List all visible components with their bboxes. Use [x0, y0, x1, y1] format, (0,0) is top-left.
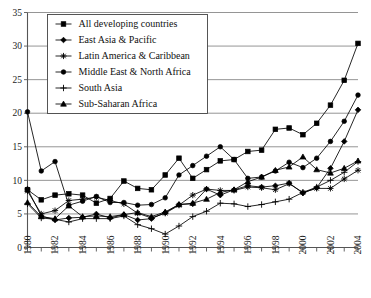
- point-latin-america-and-caribbean-1999: [286, 181, 292, 187]
- point-all-developing-countries-1998: [273, 127, 278, 132]
- point-all-developing-countries-1991: [177, 156, 182, 161]
- y-tick-label-5: 5: [17, 209, 22, 219]
- point-south-asia-1992: [190, 213, 196, 219]
- point-middle-east-and-north-africa-1980: [25, 110, 30, 115]
- point-all-developing-countries-2000: [301, 132, 306, 137]
- point-middle-east-and-north-africa-2001: [314, 156, 319, 161]
- point-south-asia-2002: [327, 177, 333, 183]
- point-middle-east-and-north-africa-2000: [301, 165, 306, 170]
- legend-label-east-asia-and-pacific: East Asia & Pacific: [79, 34, 158, 45]
- point-latin-america-and-caribbean-1993: [203, 186, 209, 192]
- point-all-developing-countries-1990: [163, 173, 168, 178]
- chart-container: 05101520253035 1980198219841986198819901…: [0, 0, 371, 298]
- point-all-developing-countries-1993: [204, 167, 209, 172]
- point-middle-east-and-north-africa-2004: [356, 93, 361, 98]
- point-all-developing-countries-2004: [356, 41, 361, 46]
- point-south-asia-2000: [300, 189, 306, 195]
- legend-marker-middle-east-and-north-africa: [61, 70, 66, 75]
- point-all-developing-countries-1982: [53, 193, 58, 198]
- point-sub-saharan-africa-2004: [355, 158, 361, 163]
- point-middle-east-and-north-africa-2002: [328, 139, 333, 144]
- point-all-developing-countries-1987: [122, 179, 127, 184]
- y-tick-label-10: 10: [13, 176, 23, 186]
- x-tick-label-1998: 1998: [271, 235, 281, 254]
- legend-label-middle-east-and-north-africa: Middle East & North Africa: [79, 66, 192, 77]
- x-tick-label-1984: 1984: [78, 235, 88, 254]
- point-south-asia-1997: [258, 201, 264, 207]
- y-axis-tick-labels: 05101520253035: [13, 8, 23, 253]
- x-tick-label-1982: 1982: [50, 235, 60, 254]
- point-all-developing-countries-2003: [342, 78, 347, 83]
- point-all-developing-countries-1985: [94, 201, 99, 206]
- y-tick-label-20: 20: [13, 108, 23, 118]
- x-tick-label-1992: 1992: [188, 235, 198, 254]
- x-tick-label-2002: 2002: [326, 235, 336, 254]
- x-tick-label-2004: 2004: [353, 235, 363, 254]
- point-latin-america-and-caribbean-1980: [24, 188, 30, 194]
- point-sub-saharan-africa-1980: [25, 200, 31, 205]
- point-all-developing-countries-1989: [149, 187, 154, 192]
- point-south-asia-1983: [66, 219, 72, 225]
- point-latin-america-and-caribbean-1996: [245, 184, 251, 190]
- point-middle-east-and-north-africa-1989: [149, 202, 154, 207]
- point-all-developing-countries-1988: [135, 186, 140, 191]
- point-latin-america-and-caribbean-2004: [355, 167, 361, 173]
- point-latin-america-and-caribbean-2003: [341, 176, 347, 182]
- point-middle-east-and-north-africa-1982: [53, 159, 58, 164]
- point-latin-america-and-caribbean-1998: [272, 187, 278, 193]
- point-all-developing-countries-1996: [246, 149, 251, 154]
- point-latin-america-and-caribbean-1982: [52, 207, 58, 213]
- point-middle-east-and-north-africa-1984: [80, 199, 85, 204]
- point-all-developing-countries-1983: [67, 191, 72, 196]
- point-south-asia-1993: [203, 208, 209, 214]
- point-middle-east-and-north-africa-1995: [232, 157, 237, 162]
- point-all-developing-countries-1999: [287, 126, 292, 131]
- x-tick-label-1988: 1988: [133, 235, 143, 254]
- y-tick-label-30: 30: [13, 41, 23, 51]
- x-tick-label-2000: 2000: [298, 235, 308, 254]
- point-sub-saharan-africa-2003: [341, 165, 347, 170]
- x-tick-label-1994: 1994: [216, 235, 226, 254]
- point-all-developing-countries-1992: [190, 176, 195, 181]
- legend-marker-latin-america-and-caribbean: [60, 53, 66, 59]
- legend-label-latin-america-and-caribbean: Latin America & Caribbean: [79, 50, 190, 61]
- point-east-asia-and-pacific-2003: [341, 139, 347, 145]
- point-all-developing-countries-2002: [328, 103, 333, 108]
- point-all-developing-countries-2001: [314, 121, 319, 126]
- point-latin-america-and-caribbean-2002: [327, 185, 333, 191]
- x-tick-label-1990: 1990: [161, 235, 171, 254]
- x-tick-label-1980: 1980: [23, 235, 33, 254]
- point-middle-east-and-north-africa-1986: [108, 200, 113, 205]
- point-east-asia-and-pacific-2004: [355, 107, 361, 113]
- point-middle-east-and-north-africa-1991: [177, 173, 182, 178]
- point-middle-east-and-north-africa-1993: [204, 154, 209, 159]
- x-axis-tick-labels: 1980198219841986198819901992199419961998…: [23, 235, 364, 254]
- legend-label-all-developing-countries: All developing countries: [79, 18, 178, 29]
- legend-label-sub-saharan-africa: Sub-Saharan Africa: [79, 98, 158, 109]
- point-south-asia-1989: [148, 226, 154, 232]
- point-middle-east-and-north-africa-1987: [122, 200, 127, 205]
- point-middle-east-and-north-africa-1992: [190, 163, 195, 168]
- point-middle-east-and-north-africa-1988: [135, 203, 140, 208]
- point-sub-saharan-africa-1993: [204, 196, 210, 201]
- point-latin-america-and-caribbean-1992: [190, 192, 196, 198]
- point-middle-east-and-north-africa-1994: [218, 144, 223, 149]
- line-chart: 05101520253035 1980198219841986198819901…: [0, 0, 371, 298]
- chart-legend: All developing countriesEast Asia & Paci…: [48, 15, 208, 114]
- point-sub-saharan-africa-1999: [286, 164, 292, 169]
- point-south-asia-1994: [217, 200, 223, 206]
- point-middle-east-and-north-africa-1990: [163, 196, 168, 201]
- y-tick-label-0: 0: [17, 243, 22, 253]
- point-south-asia-1995: [231, 201, 237, 207]
- point-south-asia-1988: [134, 221, 140, 227]
- point-south-asia-1999: [286, 196, 292, 202]
- point-all-developing-countries-1997: [259, 148, 264, 153]
- point-south-asia-1996: [245, 203, 251, 209]
- point-south-asia-1991: [176, 223, 182, 229]
- x-tick-label-1996: 1996: [243, 235, 253, 254]
- point-sub-saharan-africa-2000: [300, 154, 306, 159]
- y-tick-label-15: 15: [13, 142, 23, 152]
- x-tick-label-1986: 1986: [106, 235, 116, 254]
- legend-label-south-asia: South Asia: [79, 82, 123, 93]
- point-all-developing-countries-1994: [218, 159, 223, 164]
